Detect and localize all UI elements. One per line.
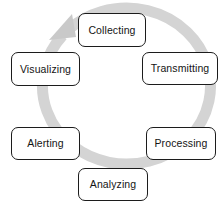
stage-node-analyzing[interactable]: Analyzing bbox=[78, 168, 148, 201]
stage-label-collecting: Collecting bbox=[88, 25, 135, 36]
stage-label-transmitting: Transmitting bbox=[151, 63, 210, 74]
stage-node-collecting[interactable]: Collecting bbox=[78, 13, 146, 47]
cycle-diagram: Collecting Transmitting Processing Analy… bbox=[0, 0, 224, 213]
stage-label-analyzing: Analyzing bbox=[90, 179, 136, 190]
stage-label-visualizing: Visualizing bbox=[20, 64, 71, 75]
stage-label-alerting: Alerting bbox=[27, 138, 63, 149]
stage-node-transmitting[interactable]: Transmitting bbox=[142, 52, 218, 85]
stage-label-processing: Processing bbox=[155, 138, 208, 149]
stage-node-visualizing[interactable]: Visualizing bbox=[11, 52, 80, 86]
stage-node-alerting[interactable]: Alerting bbox=[11, 127, 80, 160]
stage-node-processing[interactable]: Processing bbox=[146, 127, 216, 160]
